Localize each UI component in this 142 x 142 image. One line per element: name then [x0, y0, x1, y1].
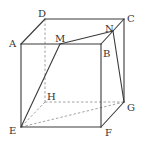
edge-EG: [21, 102, 124, 127]
label-F: F: [105, 127, 112, 138]
label-A: A: [8, 38, 17, 49]
edge-HE: [21, 102, 45, 127]
solid-edges: [21, 19, 124, 127]
label-B: B: [103, 48, 110, 59]
edge-AD: [21, 19, 45, 44]
label-G: G: [127, 102, 135, 113]
edge-EM: [21, 44, 60, 127]
cube-diagram: D A M N C B H G E F: [0, 0, 142, 142]
label-E: E: [9, 125, 16, 136]
edge-NG: [113, 31, 124, 102]
label-M: M: [55, 33, 65, 44]
label-H: H: [47, 91, 56, 102]
edge-FG: [101, 102, 124, 127]
label-N: N: [105, 23, 114, 34]
label-C: C: [127, 13, 135, 24]
label-D: D: [38, 8, 46, 19]
